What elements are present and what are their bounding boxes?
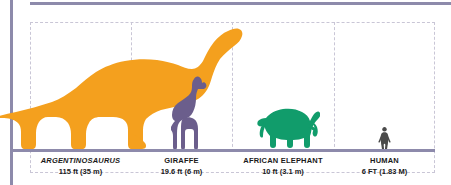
ground-line [10, 149, 435, 152]
label-human: HUMAN 6 FT (1.83 M) [334, 155, 435, 177]
label-name-african-elephant: AFRICAN ELEPHANT [232, 155, 334, 166]
elephant-silhouette-icon [252, 102, 320, 150]
labels-row: ARGENTINOSAURUS 115 ft (35 m) GIRAFFE 19… [30, 155, 435, 185]
top-accent-rule [30, 2, 451, 5]
human-silhouette-icon [378, 127, 391, 150]
label-african-elephant: AFRICAN ELEPHANT 10 ft (3.1 m) [232, 155, 334, 177]
giraffe-silhouette-icon [170, 76, 210, 151]
label-size-african-elephant: 10 ft (3.1 m) [232, 166, 334, 177]
label-size-giraffe: 19.6 ft (6 m) [131, 166, 232, 177]
label-size-argentinosaurus: 115 ft (35 m) [30, 166, 131, 177]
label-giraffe: GIRAFFE 19.6 ft (6 m) [131, 155, 232, 177]
label-name-giraffe: GIRAFFE [131, 155, 232, 166]
label-name-human: HUMAN [334, 155, 435, 166]
label-size-human: 6 FT (1.83 M) [334, 166, 435, 177]
column-divider-3 [334, 22, 335, 152]
scale-comparison-figure: ARGENTINOSAURUS 115 ft (35 m) GIRAFFE 19… [0, 0, 451, 185]
label-argentinosaurus: ARGENTINOSAURUS 115 ft (35 m) [30, 155, 131, 177]
label-name-argentinosaurus: ARGENTINOSAURUS [30, 155, 131, 166]
